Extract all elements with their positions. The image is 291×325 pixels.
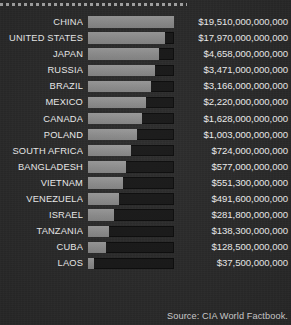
bar-fill <box>88 65 155 76</box>
bar-row-label: ISRAEL <box>0 207 83 223</box>
bar-row-value: $37,500,000,000 <box>178 255 288 271</box>
bar-row: MEXICO$2,220,000,000,000 <box>0 94 291 110</box>
bar-row-label: LAOS <box>0 255 83 271</box>
bar-row-label: SOUTH AFRICA <box>0 143 83 159</box>
bar-row: CHINA$19,510,000,000,000 <box>0 14 291 30</box>
bar-row-value: $4,658,000,000,000 <box>178 46 288 62</box>
bar-track <box>88 81 174 92</box>
bar-row-label: RUSSIA <box>0 62 83 78</box>
bar-row-label: CANADA <box>0 111 83 127</box>
bar-chart-rows: CHINA$19,510,000,000,000UNITED STATES$17… <box>0 14 291 272</box>
bar-track <box>88 242 174 253</box>
top-dashed-rule <box>0 3 187 6</box>
bar-fill <box>88 209 114 220</box>
bar-row-value: $551,300,000,000 <box>178 175 288 191</box>
bar-row-value: $577,000,000,000 <box>178 159 288 175</box>
bar-row-value: $3,471,000,000,000 <box>178 62 288 78</box>
bar-row: JAPAN$4,658,000,000,000 <box>0 46 291 62</box>
bar-row-value: $1,628,000,000,000 <box>178 111 288 127</box>
bar-row: SOUTH AFRICA$724,000,000,000 <box>0 143 291 159</box>
bar-row-value: $724,000,000,000 <box>178 143 288 159</box>
bar-row: VIETNAM$551,300,000,000 <box>0 175 291 191</box>
bar-track <box>88 226 174 237</box>
bar-track <box>88 113 174 124</box>
bar-row: RUSSIA$3,471,000,000,000 <box>0 62 291 78</box>
bar-row-label: BANGLADESH <box>0 159 83 175</box>
bar-fill <box>88 32 165 43</box>
bar-track <box>88 258 174 269</box>
bar-row: CANADA$1,628,000,000,000 <box>0 111 291 127</box>
bar-row-label: JAPAN <box>0 46 83 62</box>
bar-row-value: $1,003,000,000,000 <box>178 127 288 143</box>
bar-fill <box>88 226 109 237</box>
bar-row: CUBA$128,500,000,000 <box>0 239 291 255</box>
bar-fill <box>88 113 142 124</box>
bar-track <box>88 129 174 140</box>
bar-row: LAOS$37,500,000,000 <box>0 255 291 271</box>
bar-row-label: UNITED STATES <box>0 30 83 46</box>
bar-row: BRAZIL$3,166,000,000,000 <box>0 78 291 94</box>
bar-fill <box>88 48 159 59</box>
bar-row-label: CHINA <box>0 14 83 30</box>
bar-row-value: $281,800,000,000 <box>178 207 288 223</box>
bar-track <box>88 48 174 59</box>
bar-row-label: TANZANIA <box>0 223 83 239</box>
bar-track <box>88 16 174 27</box>
bar-fill <box>88 97 146 108</box>
bar-row-label: CUBA <box>0 239 83 255</box>
bar-track <box>88 145 174 156</box>
bar-track <box>88 161 174 172</box>
bar-row-value: $2,220,000,000,000 <box>178 94 288 110</box>
bar-row: TANZANIA$138,300,000,000 <box>0 223 291 239</box>
gdp-bar-chart: CHINA$19,510,000,000,000UNITED STATES$17… <box>0 0 291 325</box>
bar-track <box>88 193 174 204</box>
bar-row-value: $491,600,000,000 <box>178 191 288 207</box>
bar-row: POLAND$1,003,000,000,000 <box>0 127 291 143</box>
bar-track <box>88 177 174 188</box>
bar-track <box>88 65 174 76</box>
bar-track <box>88 209 174 220</box>
bar-fill <box>88 193 119 204</box>
bar-row-label: VENEZUELA <box>0 191 83 207</box>
bar-row-value: $17,970,000,000,000 <box>178 30 288 46</box>
bar-row: UNITED STATES$17,970,000,000,000 <box>0 30 291 46</box>
bar-fill <box>88 16 174 27</box>
bar-row-label: BRAZIL <box>0 78 83 94</box>
bar-row-label: VIETNAM <box>0 175 83 191</box>
bar-track <box>88 97 174 108</box>
bar-fill <box>88 161 126 172</box>
bar-row-label: POLAND <box>0 127 83 143</box>
bar-row-value: $138,300,000,000 <box>178 223 288 239</box>
bar-row: VENEZUELA$491,600,000,000 <box>0 191 291 207</box>
bar-row-value: $128,500,000,000 <box>178 239 288 255</box>
bar-row: BANGLADESH$577,000,000,000 <box>0 159 291 175</box>
bar-fill <box>88 242 106 253</box>
bar-fill <box>88 258 94 269</box>
bar-track <box>88 32 174 43</box>
bar-fill <box>88 145 131 156</box>
bar-row: ISRAEL$281,800,000,000 <box>0 207 291 223</box>
bar-fill <box>88 177 123 188</box>
source-attribution: Source: CIA World Factbook. <box>167 311 288 321</box>
bar-fill <box>88 81 151 92</box>
bar-row-value: $3,166,000,000,000 <box>178 78 288 94</box>
bar-row-value: $19,510,000,000,000 <box>178 14 288 30</box>
bar-row-label: MEXICO <box>0 94 83 110</box>
bar-fill <box>88 129 137 140</box>
